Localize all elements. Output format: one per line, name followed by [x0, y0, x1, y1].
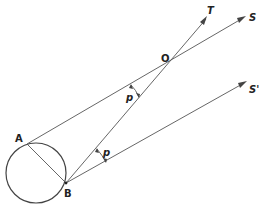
label-p-lower: p — [102, 147, 110, 158]
chord-ab — [27, 144, 66, 183]
parallax-diagram: A B O T S S' p p — [0, 0, 264, 214]
arrow-s-icon — [237, 16, 246, 23]
label-s-prime: S' — [249, 84, 259, 95]
point-b-dot — [65, 182, 68, 185]
label-b: B — [64, 188, 72, 199]
label-a: A — [15, 133, 23, 144]
label-o: O — [161, 53, 170, 64]
arrow-t-icon — [200, 16, 207, 25]
arrow-s-prime-icon — [238, 81, 247, 88]
label-s: S — [249, 12, 256, 23]
earth-circle — [6, 143, 66, 203]
line-b-s-prime — [66, 83, 244, 183]
label-p-upper: p — [125, 92, 133, 103]
line-a-s — [27, 18, 243, 144]
line-b-t — [66, 19, 206, 183]
label-t: T — [207, 5, 215, 16]
